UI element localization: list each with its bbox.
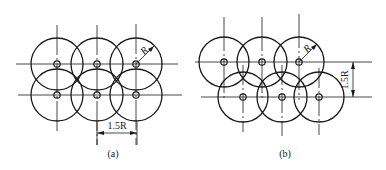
dimension-label: 1.5R <box>107 120 127 131</box>
figure-a: R 1.5R (a) <box>16 24 182 160</box>
radius-label: R <box>137 44 150 57</box>
dimension-arrow-icon <box>351 90 355 97</box>
figure-caption: (b) <box>279 148 291 160</box>
hole-markers <box>54 61 139 98</box>
diagram-canvas: R 1.5R (a) <box>0 0 386 170</box>
radius-label: R <box>300 42 313 55</box>
dimension-label: 1.5R <box>339 70 350 90</box>
figure-b: R 1.5R (b) <box>195 14 372 160</box>
dimension-arrow-icon <box>97 131 104 135</box>
figure-caption: (a) <box>107 148 118 160</box>
dimension-arrow-icon <box>351 62 355 69</box>
